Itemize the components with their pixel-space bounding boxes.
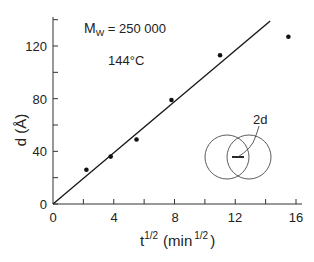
data-point [134, 137, 139, 142]
inset-label-2d: 2d [253, 112, 267, 127]
x-tick-label-16: 16 [289, 210, 303, 225]
y-ticks [53, 20, 58, 204]
data-point [169, 98, 174, 103]
y-tick-label-120: 120 [25, 39, 47, 54]
chart-canvas: 0 40 80 120 0 4 8 12 16 d (Å) t1/2(min1/… [0, 0, 314, 262]
y-axis-title: d (Å) [12, 114, 29, 147]
temperature-annotation: 144°C [108, 53, 144, 68]
overlapping-circles-inset: 2d [205, 112, 271, 179]
x-tick-label-12: 12 [228, 210, 242, 225]
data-point [218, 53, 223, 58]
x-tick-label-0: 0 [49, 210, 56, 225]
x-tick-label-4: 4 [110, 210, 117, 225]
x-axis-title: t1/2(min1/2) [140, 230, 215, 249]
x-tick-label-8: 8 [171, 210, 178, 225]
data-point [286, 34, 291, 39]
data-point [84, 167, 89, 172]
data-point [108, 154, 113, 159]
y-tick-label-80: 80 [33, 92, 47, 107]
y-tick-label-40: 40 [33, 144, 47, 159]
y-tick-label-0: 0 [40, 197, 47, 212]
molecular-weight-annotation: MW = 250 000 [84, 20, 166, 38]
x-ticks [83, 199, 296, 204]
